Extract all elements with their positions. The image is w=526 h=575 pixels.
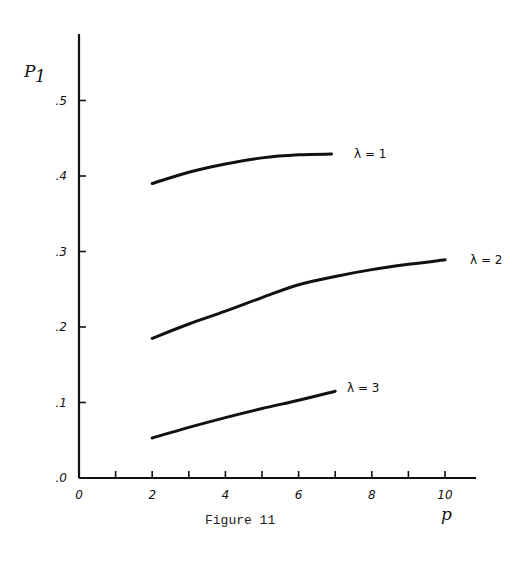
y-tick-label: .4: [56, 169, 67, 183]
y-axis-label-subscript: 1: [35, 66, 46, 86]
y-tick-label: .1: [56, 396, 67, 410]
x-axis-label: p: [441, 504, 452, 524]
line-chart: 0246810.0.1.2.3.4.5P1pλ = 1λ = 2λ = 3: [0, 0, 526, 575]
series-line-lambda-1: [152, 154, 331, 183]
y-tick-label: .5: [56, 94, 67, 108]
x-tick-label: 2: [148, 488, 156, 502]
x-tick-label: 6: [295, 488, 303, 502]
series-line-lambda-2: [152, 260, 445, 339]
x-tick-label: 10: [437, 488, 453, 502]
y-tick-label: .2: [56, 320, 67, 334]
x-tick-label: 0: [75, 488, 83, 502]
y-tick-label: .0: [56, 471, 68, 485]
series-line-lambda-3: [152, 391, 335, 438]
series-annotation-lambda-1: λ = 1: [354, 147, 386, 161]
series-annotation-lambda-2: λ = 2: [470, 253, 502, 267]
figure-caption: Figure 11: [205, 513, 275, 528]
labels: 0246810.0.1.2.3.4.5P1pλ = 1λ = 2λ = 3: [23, 61, 502, 524]
series-annotation-lambda-3: λ = 3: [347, 381, 379, 395]
axes: [79, 34, 476, 478]
x-tick-label: 8: [368, 488, 376, 502]
curves: [152, 154, 445, 438]
y-tick-label: .3: [56, 245, 67, 259]
x-tick-label: 4: [222, 488, 230, 502]
